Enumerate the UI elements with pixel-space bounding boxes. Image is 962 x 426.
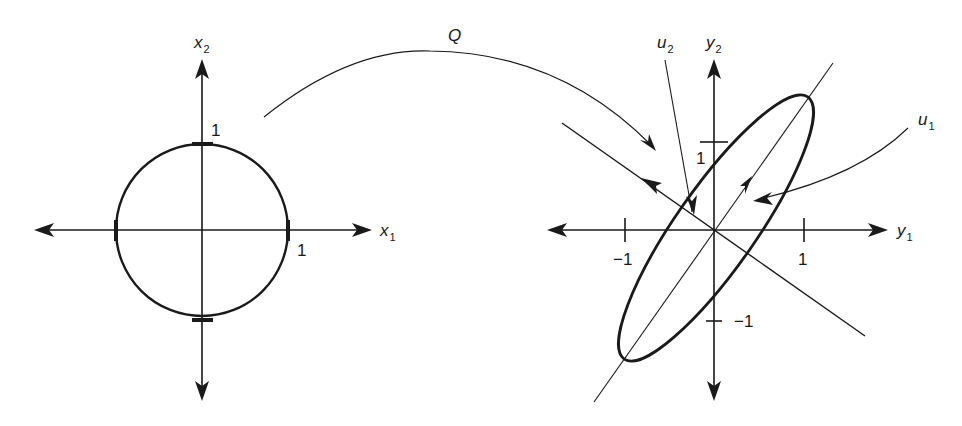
u1-label: u1 — [918, 110, 935, 132]
u1-vector-arrowhead-icon — [740, 176, 752, 194]
u1-pointer-curve — [764, 128, 908, 198]
x1-axis-label: x1 — [379, 221, 396, 243]
q-mapping-curve — [264, 51, 652, 146]
y2-axis-label: y2 — [705, 33, 722, 55]
right-plot: u2 y2 u1 y1 −1 1 1 −1 — [547, 33, 935, 402]
tick-y1-neg-label: −1 — [613, 250, 632, 269]
tick-bottom — [192, 318, 213, 322]
x2-axis-label: x2 — [193, 33, 210, 55]
q-label: Q — [448, 26, 461, 45]
tick-top — [192, 142, 213, 146]
tick-y-label: 1 — [211, 121, 220, 140]
tick-x-label: 1 — [297, 241, 306, 260]
u2-pointer-line — [665, 60, 692, 212]
tick-right — [286, 220, 290, 241]
diagram-canvas: x2 x1 1 1 Q — [0, 0, 962, 426]
y1-axis-label: y1 — [896, 221, 913, 243]
left-plot: x2 x1 1 1 — [34, 33, 396, 401]
tick-y2-pos-label: 1 — [696, 149, 705, 168]
tick-y2-neg-label: −1 — [734, 312, 753, 331]
mapping-q: Q — [264, 26, 656, 151]
u2-label: u2 — [657, 33, 674, 55]
tick-left — [114, 220, 118, 241]
tick-y1-pos-label: 1 — [798, 250, 807, 269]
u1-pointer-arrowhead-icon — [753, 192, 773, 205]
